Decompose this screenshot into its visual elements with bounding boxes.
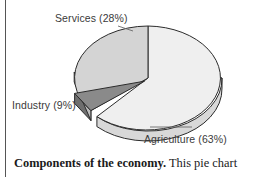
figure-caption: Components of the economy. This pie char… (14, 156, 252, 171)
slice-label-agriculture: Agriculture (63%) (144, 133, 227, 145)
slice-label-services: Services (28%) (55, 12, 128, 24)
figure-page: Services (28%) Industry (9%) Agriculture… (0, 0, 255, 177)
caption-body-text: This pie chart (166, 156, 237, 170)
pie-chart-figure: Services (28%) Industry (9%) Agriculture… (0, 0, 255, 150)
caption-lead-in: Components of the economy. (14, 156, 166, 170)
slice-label-industry: Industry (9%) (12, 99, 76, 111)
